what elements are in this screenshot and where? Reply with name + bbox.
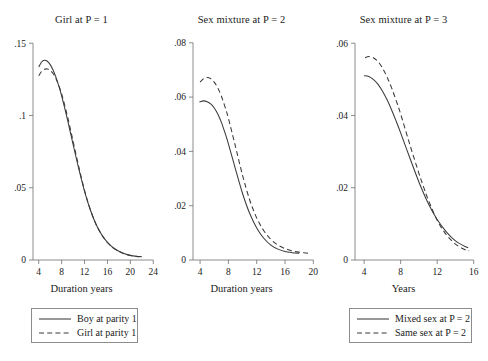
x-tick-label: 8 xyxy=(398,267,403,277)
chart-panel-2: Sex mixture at P = 2 0.02.04.06.08481216… xyxy=(160,0,323,348)
x-tick-label: 12 xyxy=(252,267,262,277)
x-tick-label: 12 xyxy=(80,267,90,277)
x-tick-label: 4 xyxy=(362,267,367,277)
x-tick-label: 12 xyxy=(432,267,442,277)
series-line xyxy=(364,76,468,248)
x-tick-label: 16 xyxy=(103,267,113,277)
plot-area-1: 0.05.1.154812162024 xyxy=(0,28,163,283)
x-axis-label-2: Duration years xyxy=(160,283,323,294)
x-axis-label-1: Duration years xyxy=(0,283,163,294)
legend-key-solid xyxy=(38,313,72,325)
y-tick-label: .02 xyxy=(336,183,348,193)
y-tick-label: .1 xyxy=(19,111,26,121)
y-tick-label: .04 xyxy=(174,147,186,157)
y-tick-label: .15 xyxy=(14,39,26,49)
chart-title-3: Sex mixture at P = 3 xyxy=(322,14,485,25)
series-line xyxy=(200,78,310,254)
legend-label: Girl at parity 1 xyxy=(77,327,136,339)
plot-area-3: 0.02.04.06481216 xyxy=(322,28,485,283)
chart-panel-3: Sex mixture at P = 3 0.02.04.06481216 Ye… xyxy=(322,0,485,348)
y-tick-label: .04 xyxy=(336,111,348,121)
x-tick-label: 16 xyxy=(280,267,290,277)
y-tick-label: .05 xyxy=(14,183,26,193)
y-tick-label: .02 xyxy=(174,201,186,211)
x-tick-label: 4 xyxy=(198,267,203,277)
x-tick-label: 8 xyxy=(226,267,231,277)
x-tick-label: 8 xyxy=(59,267,64,277)
x-axis-label-3: Years xyxy=(322,283,485,294)
legend-1: Boy at parity 1 Girl at parity 1 xyxy=(31,308,138,343)
series-line xyxy=(39,69,142,257)
y-tick-label: .06 xyxy=(174,92,186,102)
x-tick-label: 16 xyxy=(469,267,479,277)
chart-title-2: Sex mixture at P = 2 xyxy=(160,14,323,25)
source-note xyxy=(2,352,486,361)
y-tick-label: .06 xyxy=(336,39,348,49)
legend-label: Boy at parity 1 xyxy=(77,313,137,325)
series-line xyxy=(39,60,142,256)
x-tick-label: 20 xyxy=(126,267,136,277)
plot-area-2: 0.02.04.06.0848121620 xyxy=(160,28,323,283)
x-tick-label: 20 xyxy=(309,267,319,277)
series-line xyxy=(199,101,299,253)
y-tick-label: 0 xyxy=(21,255,26,265)
y-tick-label: 0 xyxy=(181,255,186,265)
legend-entry: Girl at parity 1 xyxy=(38,326,131,340)
x-tick-label: 24 xyxy=(149,267,159,277)
legend-entry: Boy at parity 1 xyxy=(38,312,131,326)
legend-key-dashed xyxy=(38,327,72,339)
series-line xyxy=(365,57,469,251)
y-tick-label: .08 xyxy=(174,38,186,48)
x-tick-label: 4 xyxy=(36,267,41,277)
y-tick-label: 0 xyxy=(343,255,348,265)
chart-title-1: Girl at P = 1 xyxy=(0,14,163,25)
chart-panel-1: Girl at P = 1 0.05.1.154812162024 Durati… xyxy=(0,0,163,348)
figure-container: Girl at P = 1 0.05.1.154812162024 Durati… xyxy=(0,0,488,361)
